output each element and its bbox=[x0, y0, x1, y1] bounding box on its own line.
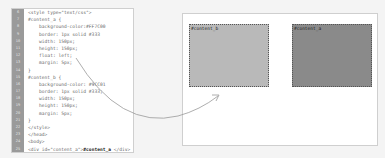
arrow-icon bbox=[0, 0, 385, 158]
